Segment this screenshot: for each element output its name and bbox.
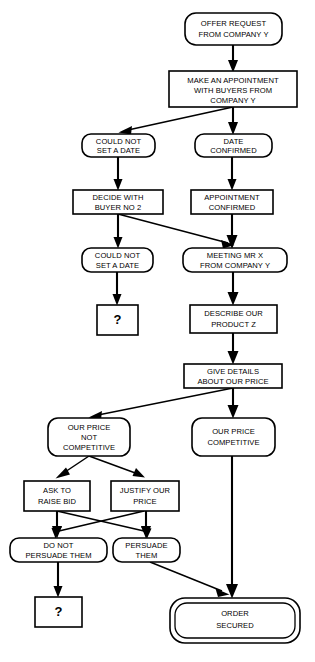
node-could-not-set-date-2-line-2: SET A DATE xyxy=(96,261,139,270)
node-appointment-confirmed[interactable]: APPOINTMENT CONFIRMED xyxy=(191,190,273,214)
node-make-appointment-line-2: WITH BUYERS FROM xyxy=(194,86,272,95)
edge-could-not-set-date-1-to-decide-with-buyer xyxy=(114,157,123,191)
node-meeting-mr-x[interactable]: MEETING MR X FROM COMPANY Y xyxy=(183,248,287,272)
node-ask-raise-bid[interactable]: ASK TO RAISE BID xyxy=(24,481,90,511)
edge-give-details-price-to-price-not-competitive xyxy=(89,388,234,420)
node-could-not-set-date-1-line-1: COULD NOT xyxy=(96,137,142,146)
node-make-appointment-line-1: MAKE AN APPOINTMENT xyxy=(187,76,279,85)
node-meeting-mr-x-line-1: MEETING MR X xyxy=(207,251,263,260)
node-ask-raise-bid-line-1: ASK TO xyxy=(43,486,71,495)
node-could-not-set-date-2-line-1: COULD NOT xyxy=(95,251,141,260)
node-do-not-persuade-line-1: DO NOT xyxy=(44,541,74,550)
node-price-competitive-line-2: COMPETITIVE xyxy=(207,438,259,447)
node-give-details-price-line-2: ABOUT OUR PRICE xyxy=(197,377,268,386)
node-justify-price-line-1: JUSTIFY OUR xyxy=(120,486,171,495)
edge-make-appointment-to-could-not-set-date-1 xyxy=(119,107,234,135)
node-order-secured-line-1: ORDER xyxy=(221,609,249,618)
edge-do-not-persuade-to-question-2 xyxy=(54,562,63,598)
node-date-confirmed-line-1: DATE xyxy=(224,137,244,146)
node-ask-raise-bid-line-2: RAISE BID xyxy=(38,497,77,506)
edge-price-competitive-to-order-secured xyxy=(226,456,238,599)
node-persuade-them[interactable]: PERSUADE THEM xyxy=(113,538,180,562)
node-make-appointment-line-3: COMPANY Y xyxy=(210,96,255,105)
node-date-confirmed-line-2: CONFIRMED xyxy=(210,146,257,155)
node-offer-request-line-2: FROM COMPANY Y xyxy=(198,30,268,39)
edge-decide-with-buyer-to-meeting-mr-x xyxy=(118,214,235,249)
node-question-2-label: ? xyxy=(55,604,63,619)
node-layer: OFFER REQUEST FROM COMPANY Y MAKE AN APP… xyxy=(10,13,300,643)
node-describe-product-line-1: DESCRIBE OUR xyxy=(204,309,263,318)
node-describe-product[interactable]: DESCRIBE OUR PRODUCT Z xyxy=(190,305,277,333)
node-could-not-set-date-1-line-2: SET A DATE xyxy=(97,146,140,155)
node-price-not-competitive[interactable]: OUR PRICE NOT COMPETITIVE xyxy=(48,418,130,456)
node-could-not-set-date-1[interactable]: COULD NOT SET A DATE xyxy=(82,134,155,157)
node-justify-price-line-2: PRICE xyxy=(133,497,157,506)
node-describe-product-line-2: PRODUCT Z xyxy=(211,320,256,329)
edge-give-details-price-to-price-competitive xyxy=(228,388,239,419)
node-appointment-confirmed-line-2: CONFIRMED xyxy=(209,203,256,212)
node-offer-request-line-1: OFFER REQUEST xyxy=(201,19,267,28)
edge-meeting-mr-x-to-describe-product xyxy=(228,272,239,306)
node-order-secured[interactable]: ORDER SECURED xyxy=(170,598,300,643)
edge-could-not-set-date-2-to-question-1 xyxy=(113,272,122,306)
edge-price-not-competitive-to-justify-price xyxy=(89,456,145,478)
node-decide-with-buyer-line-2: BUYER NO 2 xyxy=(95,203,142,212)
node-price-competitive-line-1: OUR PRICE xyxy=(212,427,255,436)
edge-justify-price-to-persuade-them xyxy=(141,511,151,539)
node-question-1[interactable]: ? xyxy=(97,305,138,335)
node-decide-with-buyer-line-1: DECIDE WITH xyxy=(93,193,144,202)
node-price-competitive[interactable]: OUR PRICE COMPETITIVE xyxy=(192,418,275,456)
node-question-2[interactable]: ? xyxy=(35,597,82,627)
node-question-1-label: ? xyxy=(114,312,122,327)
node-appointment-confirmed-line-1: APPOINTMENT xyxy=(204,193,260,202)
flowchart-svg: OFFER REQUEST FROM COMPANY Y MAKE AN APP… xyxy=(0,0,315,662)
node-price-not-competitive-line-1: OUR PRICE xyxy=(68,423,111,432)
edge-date-confirmed-to-appointment-confirmed xyxy=(228,157,237,191)
node-do-not-persuade-line-2: PERSUADE THEM xyxy=(25,551,91,560)
edge-describe-product-to-give-details-price xyxy=(228,333,239,365)
edge-justify-price-to-do-not-persuade xyxy=(52,511,145,539)
node-give-details-price-line-1: GIVE DETAILS xyxy=(207,367,259,376)
node-meeting-mr-x-line-2: FROM COMPANY Y xyxy=(200,261,270,270)
edge-ask-raise-bid-to-persuade-them xyxy=(57,511,152,539)
node-date-confirmed[interactable]: DATE CONFIRMED xyxy=(195,134,272,157)
node-price-not-competitive-line-3: COMPETITIVE xyxy=(63,443,115,452)
node-give-details-price[interactable]: GIVE DETAILS ABOUT OUR PRICE xyxy=(184,364,282,388)
node-order-secured-line-2: SECURED xyxy=(216,621,254,630)
edge-make-appointment-to-date-confirmed xyxy=(228,107,238,135)
node-make-appointment[interactable]: MAKE AN APPOINTMENT WITH BUYERS FROM COM… xyxy=(169,71,297,107)
node-justify-price[interactable]: JUSTIFY OUR PRICE xyxy=(111,481,179,511)
node-could-not-set-date-2[interactable]: COULD NOT SET A DATE xyxy=(82,248,153,272)
node-decide-with-buyer[interactable]: DECIDE WITH BUYER NO 2 xyxy=(73,190,163,214)
edge-offer-request-to-make-appointment xyxy=(228,45,238,73)
edge-price-not-competitive-to-ask-raise-bid xyxy=(56,456,90,479)
node-offer-request[interactable]: OFFER REQUEST FROM COMPANY Y xyxy=(185,13,282,45)
flowchart-canvas: OFFER REQUEST FROM COMPANY Y MAKE AN APP… xyxy=(0,0,315,662)
edge-persuade-them-to-order-secured xyxy=(150,562,230,597)
node-price-not-competitive-line-2: NOT xyxy=(81,433,98,442)
edge-decide-with-buyer-to-could-not-set-date-2 xyxy=(114,214,123,249)
node-do-not-persuade[interactable]: DO NOT PERSUADE THEM xyxy=(10,538,107,562)
node-persuade-them-line-2: THEM xyxy=(136,551,158,560)
node-persuade-them-line-1: PERSUADE xyxy=(125,541,167,550)
